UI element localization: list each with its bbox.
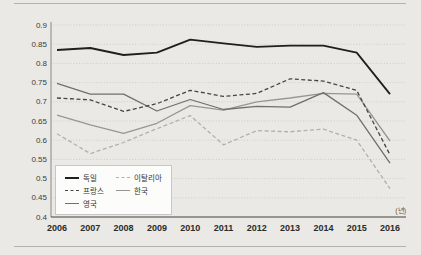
legend-column: 이탈리아한국 [116, 171, 162, 210]
legend-item-germany: 독일 [65, 171, 104, 184]
legend-column: 독일프랑스영국 [65, 171, 104, 210]
y-tick-label: 0.5 [36, 174, 48, 183]
report-page: 0.90.850.80.750.70.650.60.550.50.450.420… [0, 0, 421, 255]
legend-item-uk: 영국 [65, 197, 104, 210]
top-divider [14, 3, 406, 4]
legend-label-korea: 한국 [134, 185, 148, 196]
series-line-france [57, 79, 390, 155]
y-tick-label: 0.75 [31, 78, 47, 87]
x-tick-label: 2006 [47, 223, 67, 233]
y-tick-label: 0.45 [31, 193, 47, 202]
legend-swatch-germany [65, 177, 79, 179]
legend-swatch-korea [116, 190, 130, 191]
x-tick-label: 2008 [114, 223, 134, 233]
bottom-divider [14, 246, 406, 247]
y-tick-label: 0.85 [31, 40, 47, 49]
y-tick-label: 0.9 [36, 21, 48, 30]
chart-legend: 독일프랑스영국이탈리아한국 [55, 165, 172, 215]
x-tick-label: 2010 [180, 223, 200, 233]
series-line-korea [57, 93, 390, 141]
series-line-uk [57, 83, 390, 163]
y-tick-label: 0.65 [31, 117, 47, 126]
x-tick-label: 2011 [214, 223, 234, 233]
x-axis-unit-label: (년) [395, 206, 406, 215]
x-tick-label: 2012 [247, 223, 267, 233]
y-tick-label: 0.6 [36, 136, 48, 145]
y-tick-label: 0.4 [36, 213, 48, 222]
x-tick-label: 2009 [147, 223, 167, 233]
x-tick-label: 2014 [313, 223, 333, 233]
line-chart: 0.90.850.80.750.70.650.60.550.50.450.420… [0, 0, 421, 255]
legend-item-france: 프랑스 [65, 184, 104, 197]
legend-label-france: 프랑스 [83, 185, 104, 196]
legend-item-korea: 한국 [116, 184, 162, 197]
legend-item-italy: 이탈리아 [116, 171, 162, 184]
y-tick-label: 0.8 [36, 59, 48, 68]
x-tick-label: 2016 [380, 223, 400, 233]
y-tick-label: 0.7 [36, 97, 48, 106]
legend-swatch-italy [116, 177, 130, 178]
x-tick-label: 2015 [347, 223, 367, 233]
x-tick-label: 2013 [280, 223, 300, 233]
legend-label-germany: 독일 [83, 172, 97, 183]
legend-swatch-france [65, 190, 79, 191]
legend-swatch-uk [65, 203, 79, 204]
y-tick-label: 0.55 [31, 155, 47, 164]
x-tick-label: 2007 [80, 223, 100, 233]
legend-label-uk: 영국 [83, 198, 97, 209]
legend-label-italy: 이탈리아 [134, 172, 162, 183]
